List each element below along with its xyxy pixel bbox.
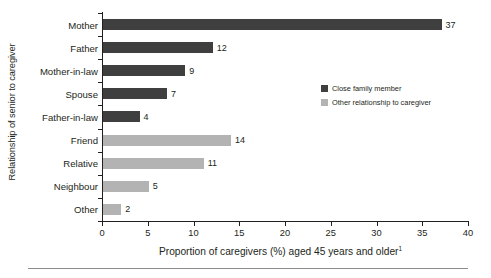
x-axis-tick-label: 20 [270,228,300,239]
y-axis-tick [98,13,102,14]
legend-label: Other relationship to caregiver [332,98,431,107]
bar [103,135,231,146]
y-axis-tick [98,129,102,130]
bar [103,204,121,215]
x-axis-tick-label: 10 [179,228,209,239]
legend-swatch [321,99,328,106]
bar-value-label: 5 [153,181,158,192]
y-axis-tick [98,36,102,37]
y-axis-category-label: Spouse [16,89,98,100]
bar-value-label: 7 [171,89,176,100]
bar [103,19,442,30]
x-axis-tick [331,222,332,226]
x-axis-tick-label: 0 [87,228,117,239]
y-axis-tick [98,82,102,83]
x-axis-tick [148,222,149,226]
legend: Close family memberOther relationship to… [321,82,481,110]
y-axis-tick [98,198,102,199]
legend-swatch [321,85,328,92]
x-axis-tick-label: 40 [453,228,483,239]
bar [103,65,185,76]
x-axis-title-footnote: 1 [398,245,402,252]
bar-chart-figure: Relationship of senior to caregiver Moth… [0,0,491,278]
bar-value-label: 14 [235,135,245,146]
bar [103,88,167,99]
bar-value-label: 37 [446,20,456,31]
y-axis-category-label: Mother [16,20,98,31]
x-axis-tick [285,222,286,226]
x-axis-title-text: Proportion of caregivers (%) aged 45 yea… [159,246,399,257]
bar [103,158,204,169]
y-axis-category-label: Father-in-law [16,112,98,123]
y-axis-tick [98,59,102,60]
x-axis-tick [468,222,469,226]
y-axis-category-label: Mother-in-law [16,66,98,77]
bar-value-label: 4 [144,112,149,123]
legend-item: Close family member [321,82,481,94]
x-axis-tick [239,222,240,226]
x-axis-tick-label: 35 [407,228,437,239]
bar [103,42,213,53]
legend-label: Close family member [332,84,401,93]
y-axis-tick [98,175,102,176]
x-axis-tick-label: 5 [133,228,163,239]
x-axis-title: Proportion of caregivers (%) aged 45 yea… [0,245,491,257]
bar-value-label: 9 [189,66,194,77]
bar [103,181,149,192]
bar [103,111,140,122]
y-axis-category-label: Friend [16,135,98,146]
bar-value-label: 11 [208,158,217,169]
bar-value-label: 12 [217,43,227,54]
y-axis-category-label: Father [16,43,98,54]
x-axis-tick-label: 30 [362,228,392,239]
y-axis-tick [98,105,102,106]
x-axis-tick [422,222,423,226]
x-axis-tick [377,222,378,226]
x-axis-tick [194,222,195,226]
y-axis-category-label: Relative [16,158,98,169]
footer-divider [28,268,468,269]
x-axis-tick-label: 25 [316,228,346,239]
x-axis-tick-label: 15 [224,228,254,239]
bar-value-label: 2 [125,204,130,215]
legend-item: Other relationship to caregiver [321,96,481,108]
x-axis-tick [102,222,103,226]
y-axis-category-labels: MotherFatherMother-in-lawSpouseFather-in… [16,13,98,221]
y-axis-category-label: Neighbour [16,181,98,192]
plot-area: 3712974141152 [102,13,468,221]
y-axis-category-label: Other [16,204,98,215]
y-axis-tick [98,152,102,153]
